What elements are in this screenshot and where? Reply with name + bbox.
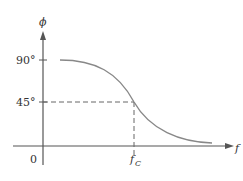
x-axis-arrow-icon (225, 143, 234, 149)
phase-plot: ϕ 90° 45° 0 f C f (0, 0, 243, 181)
fc-subscript: C (135, 159, 141, 168)
tick-label-45: 45° (16, 96, 36, 109)
origin-label: 0 (30, 153, 37, 166)
y-axis-arrow-icon (40, 31, 46, 40)
x-axis-label: f (234, 142, 241, 155)
phase-curve (60, 60, 212, 143)
y-axis-label: ϕ (39, 16, 47, 29)
tick-label-90: 90° (16, 54, 36, 67)
